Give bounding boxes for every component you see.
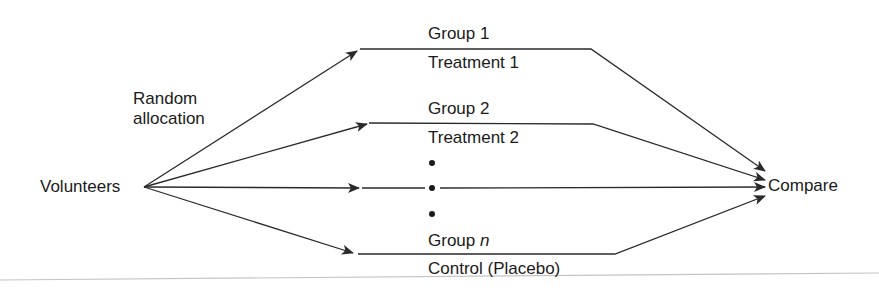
treatment-2-label: Treatment 2 bbox=[428, 128, 519, 148]
group-1-path bbox=[360, 49, 765, 171]
ellipsis-dot-1 bbox=[429, 160, 435, 166]
group-n-variable: n bbox=[480, 231, 489, 250]
arrow-to-group-n bbox=[144, 187, 353, 253]
group-1-label: Group 1 bbox=[428, 24, 489, 44]
allocation-label-line-2: allocation bbox=[133, 109, 205, 129]
arrow-to-middle bbox=[144, 187, 359, 188]
group-n-label: Group n bbox=[428, 231, 489, 251]
group-n-path bbox=[358, 196, 765, 254]
arrow-to-group-2 bbox=[144, 124, 367, 187]
diagram-canvas: Volunteers Random allocation Group 1 Tre… bbox=[0, 0, 879, 294]
middle-path-b bbox=[440, 187, 765, 188]
source-label: Volunteers bbox=[40, 177, 120, 197]
ellipsis-dot-3 bbox=[429, 211, 435, 217]
group-2-label: Group 2 bbox=[428, 99, 489, 119]
ellipsis-dot-2 bbox=[429, 185, 435, 191]
group-n-prefix: Group bbox=[428, 231, 480, 250]
treatment-1-label: Treatment 1 bbox=[428, 53, 519, 73]
target-label: Compare bbox=[768, 176, 838, 196]
allocation-label-line-1: Random bbox=[133, 89, 197, 109]
control-label: Control (Placebo) bbox=[428, 259, 560, 279]
